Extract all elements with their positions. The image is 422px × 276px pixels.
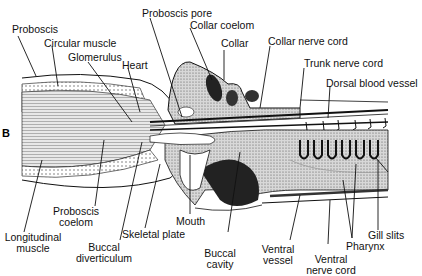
- label-ventral-nerve-cord: Ventral nerve cord: [302, 254, 360, 276]
- label-pharynx: Pharynx: [346, 241, 385, 252]
- label-trunk-nerve-cord: Trunk nerve cord: [304, 58, 383, 69]
- label-collar-nerve-cord: Collar nerve cord: [268, 36, 348, 47]
- label-longitudinal-muscle: Longitudinal muscle: [2, 232, 64, 254]
- label-proboscis-coelom: Proboscis coelom: [48, 206, 104, 228]
- label-glomerulus: Glomerulus: [68, 52, 122, 63]
- label-proboscis-pore: Proboscis pore: [142, 8, 212, 19]
- label-proboscis: Proboscis: [12, 24, 58, 35]
- label-collar: Collar: [221, 38, 248, 49]
- label-buccal-cavity: Buccal cavity: [200, 248, 240, 270]
- label-gill-slits: Gill slits: [368, 230, 404, 241]
- panel-label: B: [2, 127, 10, 139]
- label-heart: Heart: [122, 60, 148, 71]
- label-dorsal-blood-vessel: Dorsal blood vessel: [326, 78, 418, 89]
- label-buccal-diverticulum: Buccal diverticulum: [72, 242, 136, 264]
- label-circular-muscle: Circular muscle: [44, 38, 116, 49]
- label-collar-coelom: Collar coelom: [190, 20, 254, 31]
- label-mouth: Mouth: [176, 216, 205, 227]
- label-skeletal-plate: Skeletal plate: [122, 229, 185, 240]
- label-ventral-vessel: Ventral vessel: [256, 244, 300, 266]
